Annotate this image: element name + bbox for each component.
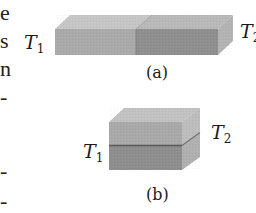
slab-diagram: T1 T2 (a) T1 xyxy=(0,0,256,213)
caption-b: (b) xyxy=(146,185,169,204)
caption-a: (a) xyxy=(146,63,168,82)
panel-b: T1 T2 (b) xyxy=(83,108,231,204)
panel-a: T1 T2 (a) xyxy=(24,15,256,82)
label-b-t2: T2 xyxy=(211,121,231,146)
figure-page: e s n - - - xyxy=(0,0,256,213)
label-a-t2: T2 xyxy=(240,20,256,45)
label-a-t1: T1 xyxy=(24,31,44,56)
label-b-t1: T1 xyxy=(83,140,103,165)
